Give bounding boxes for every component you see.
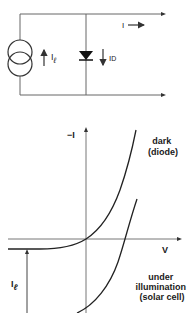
x-axis-label: V: [162, 245, 168, 255]
offset-label: Iℓ: [11, 279, 19, 292]
equivalent-circuit: Iℓ ID I: [8, 12, 166, 97]
output-current-label: I: [122, 21, 124, 30]
iv-plot: −I V dark (diode) under illumination (so…: [8, 127, 189, 313]
solar-cell-diagram: Iℓ ID I −I V dark (diode): [0, 0, 192, 313]
y-axis-arrow-icon: [84, 127, 88, 132]
diode-icon: [79, 51, 93, 60]
diode-current-label: ID: [109, 54, 116, 63]
current-source-icon: [8, 40, 32, 76]
dark-curve-label: dark (diode): [148, 136, 178, 157]
bottom-terminal-arrow-icon: [161, 93, 166, 97]
y-axis-label: −I: [67, 130, 75, 140]
top-terminal-arrow-icon: [161, 12, 166, 16]
dark-curve: [8, 130, 136, 249]
source-current-label: Iℓ: [51, 52, 57, 65]
illuminated-curve-label: under illumination (solar cell): [135, 272, 188, 302]
offset-arrowhead-icon: [25, 249, 29, 254]
x-axis-arrow-icon: [177, 237, 182, 241]
